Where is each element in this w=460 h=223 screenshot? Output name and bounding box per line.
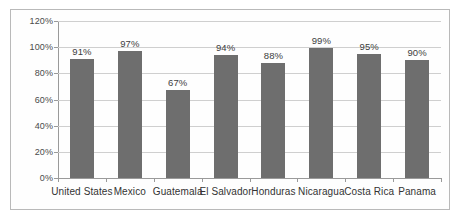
bar xyxy=(214,55,238,178)
plot-area: 91%97%67%94%88%99%95%90% xyxy=(58,21,441,178)
y-axis-tick-label: 120% xyxy=(13,16,53,26)
bar-group: 95% xyxy=(345,21,393,178)
y-axis-tick-label: 0% xyxy=(13,173,53,183)
x-axis-tick-mark xyxy=(106,178,107,182)
bar-group: 94% xyxy=(202,21,250,178)
y-axis-tick-label: 80% xyxy=(13,68,53,78)
bar xyxy=(118,51,142,178)
chart-frame: 0%20%40%60%80%100%120% 91%97%67%94%88%99… xyxy=(10,9,450,210)
bar xyxy=(166,90,190,178)
x-axis-category-label: El Salvador xyxy=(199,186,251,197)
bar xyxy=(261,63,285,178)
bar xyxy=(309,48,333,178)
bar-value-label: 67% xyxy=(168,77,187,88)
bar-group: 97% xyxy=(106,21,154,178)
bar-group: 88% xyxy=(250,21,298,178)
bar-value-label: 90% xyxy=(407,47,426,58)
x-axis-category-label: Guatemala xyxy=(153,186,203,197)
x-axis-category-label: Honduras xyxy=(251,186,295,197)
x-axis-tick-mark xyxy=(250,178,251,182)
bar-group: 91% xyxy=(58,21,106,178)
bar-group: 90% xyxy=(393,21,441,178)
x-axis-tick-mark xyxy=(297,178,298,182)
x-axis-category-label: United States xyxy=(51,186,112,197)
x-axis-category-label: Panama xyxy=(398,186,436,197)
bar-value-label: 99% xyxy=(312,35,331,46)
bar-group: 67% xyxy=(154,21,202,178)
x-axis-tick-mark xyxy=(345,178,346,182)
bar xyxy=(405,60,429,178)
x-axis-tick-mark xyxy=(154,178,155,182)
bar-value-label: 97% xyxy=(120,38,139,49)
y-axis-tick-label: 20% xyxy=(13,147,53,157)
bar-value-label: 91% xyxy=(72,46,91,57)
bar-series: 91%97%67%94%88%99%95%90% xyxy=(58,21,441,178)
bar xyxy=(70,59,94,178)
bar xyxy=(357,54,381,178)
x-axis-category-label: Nicaragua xyxy=(298,186,344,197)
y-axis-tick-label: 60% xyxy=(13,95,53,105)
bar-value-label: 94% xyxy=(216,42,235,53)
y-axis-tick-label: 40% xyxy=(13,121,53,131)
bar-value-label: 88% xyxy=(264,50,283,61)
x-axis-tick-mark xyxy=(58,178,59,182)
x-axis-tick-mark xyxy=(441,178,442,182)
bar-value-label: 95% xyxy=(360,41,379,52)
bar-group: 99% xyxy=(297,21,345,178)
x-axis-category-label: Costa Rica xyxy=(344,186,394,197)
x-axis-tick-mark xyxy=(202,178,203,182)
y-axis-tick-label: 100% xyxy=(13,42,53,52)
x-axis-tick-mark xyxy=(393,178,394,182)
x-axis-category-label: Mexico xyxy=(114,186,146,197)
